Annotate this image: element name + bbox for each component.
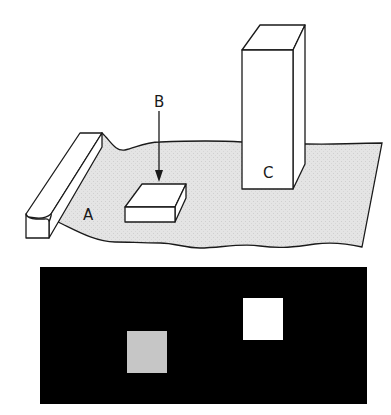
gray-square	[127, 331, 167, 373]
surface-sheet	[58, 133, 382, 248]
object-c-tower	[242, 25, 305, 189]
label-c: C	[263, 164, 273, 182]
label-b: B	[154, 93, 164, 111]
label-a: A	[83, 206, 94, 224]
image-panel	[40, 267, 367, 404]
diagram: A B C	[0, 0, 391, 415]
white-square	[243, 298, 283, 340]
